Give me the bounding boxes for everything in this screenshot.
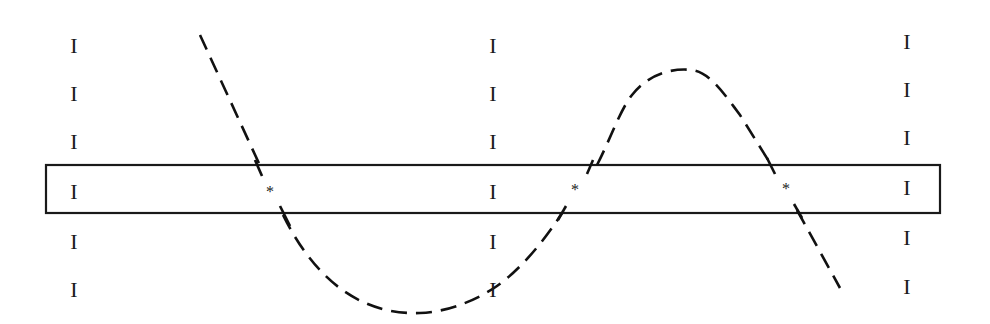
i-marker: I: [70, 279, 77, 301]
curve-band-crossing: [280, 206, 290, 226]
asterisk-icon: *: [782, 181, 790, 197]
asterisk-icon: *: [571, 182, 579, 198]
curve-band-crossing: [794, 204, 802, 218]
i-marker: I: [489, 181, 496, 203]
dashed-curve: [200, 35, 840, 313]
i-marker: I: [489, 279, 496, 301]
i-marker: I: [903, 31, 910, 53]
asterisk-icon: *: [266, 184, 274, 200]
i-marker: I: [903, 227, 910, 249]
i-marker: I: [70, 131, 77, 153]
i-marker: I: [70, 35, 77, 57]
i-marker: I: [489, 83, 496, 105]
crossing-ticks: [255, 158, 802, 226]
i-marker: I: [489, 231, 496, 253]
i-marker: I: [70, 181, 77, 203]
i-marker: I: [70, 231, 77, 253]
i-marker: I: [903, 276, 910, 298]
i-marker: I: [903, 177, 910, 199]
i-marker: I: [489, 35, 496, 57]
i-marker: I: [903, 79, 910, 101]
i-marker: I: [903, 127, 910, 149]
i-marker: I: [489, 131, 496, 153]
i-marker: I: [70, 83, 77, 105]
curve-band-crossing: [587, 160, 593, 174]
